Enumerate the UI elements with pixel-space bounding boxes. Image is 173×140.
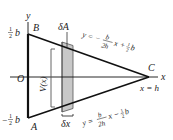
- svg-text:b: b: [124, 107, 130, 117]
- svg-text:2: 2: [9, 33, 12, 39]
- x-end-label: x = h: [139, 83, 160, 93]
- upper-edge-equation: y = − b 2h x + 1 2 b: [79, 27, 137, 58]
- vertex-b-label: B: [33, 22, 39, 33]
- triangle-diagram: y x O B A C 1 2 b − 1 2 b δA δx V(x) x =…: [0, 0, 173, 140]
- svg-text:b: b: [130, 43, 136, 53]
- svg-text:x −: x −: [106, 109, 120, 121]
- y-tick-bottom: − 1 2 b: [2, 113, 20, 126]
- y-tick-top: 1 2 b: [8, 26, 20, 39]
- lower-edge-equation: y = b 2h x − 1 2 b: [79, 104, 131, 133]
- origin-label: O: [17, 73, 24, 84]
- vertex-a-label: A: [30, 121, 38, 132]
- y-axis-label: y: [25, 10, 31, 21]
- strip-area-label: δA: [58, 21, 70, 32]
- svg-text:2: 2: [9, 120, 12, 126]
- height-label: V(x): [38, 77, 48, 93]
- svg-text:b: b: [15, 114, 20, 125]
- svg-text:x +: x +: [112, 38, 126, 50]
- svg-text:1: 1: [9, 113, 12, 119]
- svg-text:y =: y =: [80, 116, 94, 128]
- svg-text:b: b: [15, 27, 20, 38]
- svg-text:2h: 2h: [97, 119, 106, 129]
- height-bracket: [51, 49, 55, 107]
- x-axis-label: x: [160, 71, 166, 82]
- svg-text:−: −: [2, 115, 7, 125]
- vertex-c-label: C: [148, 62, 155, 73]
- svg-text:1: 1: [9, 26, 12, 32]
- svg-text:2: 2: [125, 47, 129, 53]
- strip-width-label: δx: [61, 118, 71, 129]
- svg-text:y = −: y = −: [80, 30, 101, 44]
- width-bracket: [62, 114, 73, 116]
- svg-text:2h: 2h: [100, 41, 109, 51]
